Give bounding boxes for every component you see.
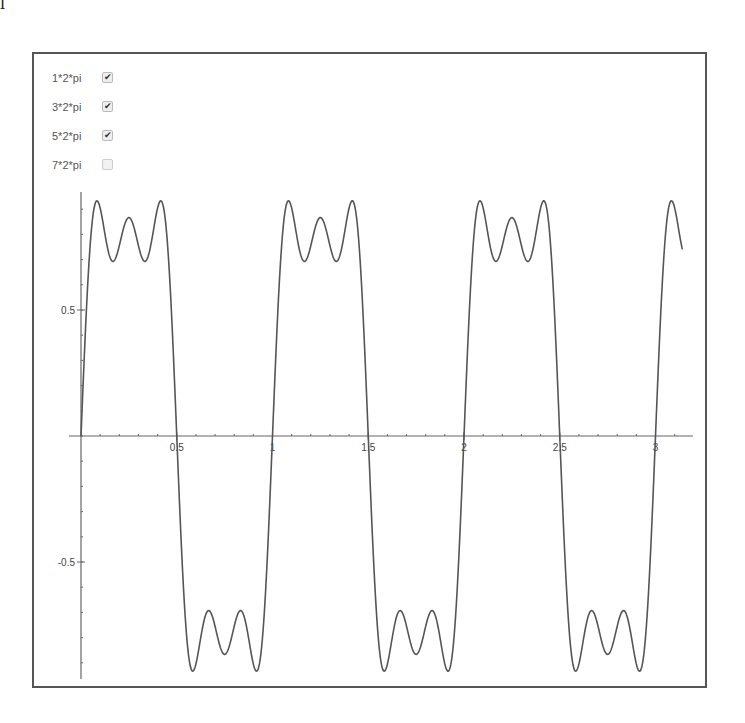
y-tick-label: -0.5 — [58, 557, 76, 568]
plot-area: 0.511.522.530.5-0.5 — [0, 0, 745, 723]
y-tick-label: 0.5 — [61, 305, 75, 316]
